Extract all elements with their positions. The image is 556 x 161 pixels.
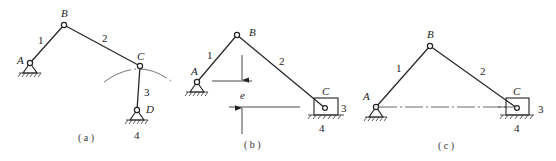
label-joint-b: B	[249, 26, 256, 38]
label-joint-c: C	[137, 50, 145, 62]
joint-b	[234, 32, 239, 37]
label-link-1: 1	[207, 49, 213, 61]
label-link-4: 4	[514, 122, 520, 134]
label-offset-e: e	[240, 89, 245, 101]
label-joint-b: B	[427, 28, 434, 40]
label-link-4: 4	[319, 122, 325, 134]
link-1-crank	[30, 25, 64, 63]
swing-arc-c	[104, 69, 172, 82]
label-link-3: 3	[144, 86, 150, 98]
label-link-2: 2	[279, 55, 285, 67]
figure-a-four-bar-linkage: A B C D 1 2 3 4 ( a )	[16, 7, 172, 144]
label-link-1: 1	[396, 62, 402, 74]
caption-a: ( a )	[78, 132, 94, 144]
label-joint-b: B	[61, 7, 68, 19]
joint-d	[134, 107, 139, 112]
label-link-3: 3	[538, 103, 544, 115]
label-joint-c: C	[322, 85, 330, 97]
ground-guide-c	[500, 115, 534, 119]
label-joint-d: D	[145, 103, 154, 115]
link-3-rocker	[137, 66, 140, 110]
label-link-4: 4	[134, 129, 140, 141]
label-link-2: 2	[102, 32, 108, 44]
joint-a	[27, 60, 32, 65]
label-joint-a: A	[16, 54, 24, 66]
linkage-diagrams: A B C D 1 2 3 4 ( a ) e	[0, 0, 556, 161]
link-2-coupler	[430, 46, 517, 108]
joint-a	[373, 104, 378, 109]
joint-a	[194, 79, 199, 84]
link-2-coupler	[237, 35, 325, 108]
joint-c	[515, 106, 520, 111]
link-1-crank	[197, 35, 237, 82]
label-link-2: 2	[480, 65, 486, 77]
label-joint-c: C	[513, 85, 521, 97]
joint-c	[137, 63, 142, 68]
figure-b-offset-slider-crank: e	[185, 26, 347, 151]
joint-b	[427, 43, 432, 48]
figure-c-centric-slider-crank: A B C 1 2 3 4 ( c )	[362, 28, 544, 152]
ground-guide-b	[308, 115, 344, 119]
label-joint-a: A	[190, 65, 198, 77]
label-joint-a: A	[362, 90, 370, 102]
joint-b	[61, 22, 66, 27]
link-1-crank	[376, 46, 430, 107]
joint-c	[323, 106, 328, 111]
caption-c: ( c )	[438, 140, 454, 152]
label-link-3: 3	[341, 102, 347, 114]
label-link-1: 1	[38, 34, 44, 46]
caption-b: ( b )	[244, 139, 261, 151]
